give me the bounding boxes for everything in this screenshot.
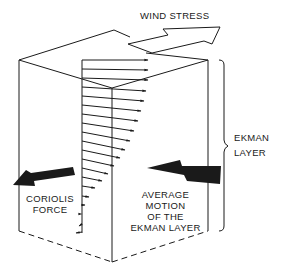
velocity-arrow-icon (82, 141, 125, 150)
velocity-arrow-icon (82, 69, 148, 70)
velocity-arrow-icon (82, 114, 138, 121)
velocity-arrow-icon (82, 177, 102, 181)
average-label-line2: MOTION (123, 200, 208, 211)
average-motion-arrow-icon (147, 160, 221, 184)
velocity-arrow-icon (82, 96, 144, 101)
coriolis-force-label: CORIOLIS FORCE (20, 193, 80, 215)
average-label-line4: EKMAN LAYER (123, 222, 208, 233)
velocity-arrow-icon (82, 196, 89, 197)
velocity-arrow-icon (82, 132, 130, 141)
average-label-line3: OF THE (123, 211, 208, 222)
ekman-layer-label-line1: EKMAN (234, 132, 269, 143)
ekman-layer-label-line2: LAYER (234, 147, 269, 158)
box-bottom-dashed (19, 231, 208, 262)
velocity-arrow-icon (82, 150, 120, 158)
ekman-layer-label: EKMAN LAYER (234, 132, 269, 158)
coriolis-force-arrow-icon (13, 167, 75, 186)
velocity-arrow-icon (82, 78, 148, 80)
average-label-line1: AVERAGE (123, 189, 208, 200)
ekman-layer-brace-icon (219, 60, 228, 231)
coriolis-label-line1: CORIOLIS (20, 193, 80, 204)
velocity-arrow-icon (82, 159, 114, 166)
wind-stress-arrow-icon (128, 27, 220, 53)
velocity-arrow-icon (82, 168, 108, 174)
average-motion-label: AVERAGE MOTION OF THE EKMAN LAYER (123, 189, 208, 233)
wind-stress-label: WIND STRESS (140, 10, 209, 21)
coriolis-label-line2: FORCE (20, 204, 80, 215)
velocity-arrow-icon (82, 123, 134, 131)
velocity-arrow-icon (82, 186, 95, 188)
velocity-arrow-icon (76, 232, 82, 233)
